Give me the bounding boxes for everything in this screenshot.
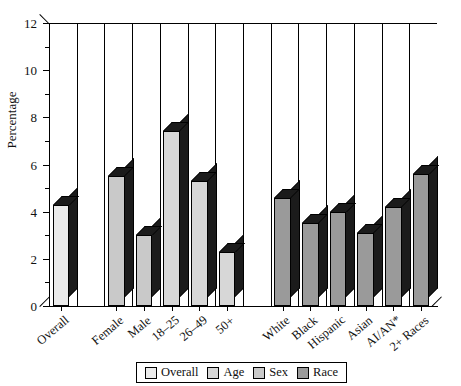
- x-tick-mark: [393, 306, 394, 311]
- bar: [53, 205, 70, 306]
- bar: [385, 207, 402, 306]
- x-tick-mark: [199, 306, 200, 311]
- legend-label: Sex: [269, 365, 288, 380]
- plot-area: [49, 23, 437, 306]
- bar: [274, 198, 291, 306]
- legend-label: Age: [223, 365, 244, 380]
- bar-front-face: [274, 198, 291, 306]
- bar: [136, 235, 153, 306]
- x-tick-mark: [421, 306, 422, 311]
- y-tick-label: 12: [24, 17, 37, 30]
- y-axis: Percentage 024681012: [0, 0, 49, 306]
- x-axis-label: White: [260, 313, 293, 344]
- y-tick-label: 4: [31, 205, 38, 218]
- bar: [191, 181, 208, 306]
- x-axis-label: Female: [89, 313, 127, 348]
- bar-side-face: [180, 113, 189, 297]
- legend-swatch: [145, 367, 157, 379]
- x-axis-labels: OverallFemaleMale18–2526–4950+WhiteBlack…: [0, 306, 461, 356]
- bar-front-face: [302, 223, 319, 306]
- x-tick-mark: [283, 306, 284, 311]
- bar-front-face: [108, 176, 125, 306]
- bar-front-face: [163, 131, 180, 306]
- bar: [302, 223, 319, 306]
- bar-front-face: [413, 174, 430, 306]
- plot-depth-bottom-right: [432, 293, 446, 307]
- x-axis-label: 26–49: [177, 313, 211, 345]
- bar-front-face: [53, 205, 70, 306]
- legend-label: Race: [313, 365, 338, 380]
- x-tick-mark: [61, 306, 62, 311]
- bar-front-face: [385, 207, 402, 306]
- bar: [330, 212, 347, 306]
- y-axis-title: Percentage: [4, 60, 20, 180]
- bar-front-face: [219, 252, 236, 306]
- legend-swatch: [297, 367, 309, 379]
- bar-side-face: [208, 163, 217, 297]
- legend-item[interactable]: Overall: [143, 365, 200, 380]
- gridline: [271, 23, 272, 306]
- legend-item[interactable]: Age: [205, 365, 246, 380]
- bar-side-face: [125, 158, 134, 297]
- x-axis-label: 18–25: [149, 313, 183, 345]
- x-tick-mark: [144, 306, 145, 311]
- x-tick-mark: [172, 306, 173, 311]
- chart-legend: OverallAgeSexRace: [136, 362, 347, 383]
- bar-front-face: [357, 233, 374, 306]
- y-tick-label: 10: [24, 64, 37, 77]
- bar-front-face: [330, 212, 347, 306]
- x-axis-label: 50+: [213, 313, 238, 337]
- bar: [108, 176, 125, 306]
- legend-swatch: [207, 367, 219, 379]
- x-tick-mark: [338, 306, 339, 311]
- bar-side-face: [291, 180, 300, 297]
- x-tick-mark: [116, 306, 117, 311]
- bar: [413, 174, 430, 306]
- x-tick-mark: [310, 306, 311, 311]
- y-tick-label: 6: [31, 158, 38, 171]
- bar-front-face: [191, 181, 208, 306]
- legend-item[interactable]: Sex: [251, 365, 290, 380]
- legend-swatch: [253, 367, 265, 379]
- bar: [357, 233, 374, 306]
- legend-item[interactable]: Race: [295, 365, 340, 380]
- bar-front-face: [136, 235, 153, 306]
- gridline: [104, 23, 105, 306]
- plot-depth-top-left: [40, 14, 53, 27]
- bar-chart: Percentage 024681012 OverallFemaleMale18…: [0, 0, 461, 386]
- x-axis-label: Overall: [34, 313, 72, 349]
- x-axis-label: Male: [125, 313, 154, 341]
- bar: [163, 131, 180, 306]
- y-tick-label: 2: [31, 252, 38, 265]
- legend-label: Overall: [161, 365, 198, 380]
- y-tick-label: 8: [31, 111, 38, 124]
- x-tick-mark: [227, 306, 228, 311]
- bar: [219, 252, 236, 306]
- bar-side-face: [429, 156, 438, 297]
- x-tick-mark: [366, 306, 367, 311]
